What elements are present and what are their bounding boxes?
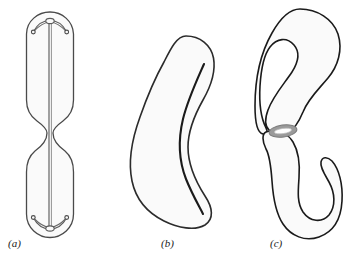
lower-loop-dot-right-a [65,216,69,220]
upper-loop-dot-right-a [65,30,69,34]
panel-label-b: (b) [161,238,174,249]
panel-label-a: (a) [8,238,21,249]
panel-label-c: (c) [270,238,282,249]
chromosome-outline-a [27,12,74,238]
upper-loop-crest-a [46,18,54,23]
panel-c-group [255,9,342,239]
panel-b-group [130,36,214,228]
lower-loop-dot-left-a [31,216,35,220]
lower-loop-crest-a [46,226,54,231]
panel-a-group [27,12,74,238]
figure-illustration [0,0,346,259]
bean-outline-b [130,36,214,228]
upper-loop-dot-left-a [31,30,35,34]
lower-lobe-outline-c [263,131,342,239]
figure-container: (a) (b) (c) [0,0,346,259]
upper-lobe-outline-c [255,9,340,134]
